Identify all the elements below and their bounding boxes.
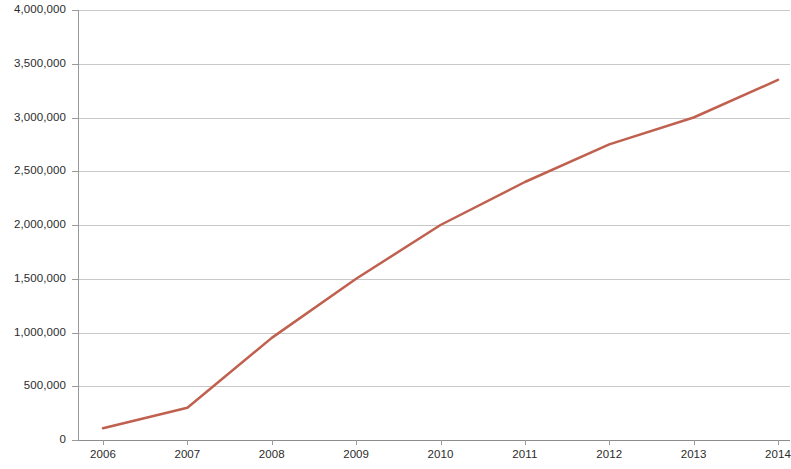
y-axis-line xyxy=(78,10,79,441)
y-axis-tick-label: 3,500,000 xyxy=(14,58,66,70)
y-axis-tick xyxy=(72,10,78,11)
y-axis-tick xyxy=(72,279,78,280)
y-axis-tick xyxy=(72,118,78,119)
x-axis-tick xyxy=(525,440,526,445)
y-axis-tick-label: 3,000,000 xyxy=(14,112,66,124)
x-axis-tick xyxy=(356,440,357,445)
gridline xyxy=(78,10,790,11)
gridline xyxy=(78,225,790,226)
x-axis-tick-label: 2010 xyxy=(428,449,454,461)
y-axis-tick xyxy=(72,64,78,65)
gridline xyxy=(78,279,790,280)
x-axis-tick xyxy=(441,440,442,445)
y-axis-tick xyxy=(72,225,78,226)
gridline xyxy=(78,118,790,119)
y-axis-tick-label: 2,500,000 xyxy=(14,166,66,178)
x-axis-tick xyxy=(187,440,188,445)
gridline xyxy=(78,386,790,387)
y-axis-tick xyxy=(72,171,78,172)
x-axis-tick-label: 2014 xyxy=(765,449,791,461)
x-axis-tick xyxy=(103,440,104,445)
x-axis-tick xyxy=(609,440,610,445)
gridline xyxy=(78,171,790,172)
y-axis-tick-label: 0 xyxy=(60,434,67,446)
y-axis-tick-label: 1,000,000 xyxy=(14,327,66,339)
x-axis-tick-label: 2012 xyxy=(596,449,622,461)
gridline xyxy=(78,440,790,441)
series-line-1 xyxy=(103,80,778,428)
gridline xyxy=(78,333,790,334)
y-axis-tick-label: 1,500,000 xyxy=(14,273,66,285)
x-axis-tick-label: 2009 xyxy=(343,449,369,461)
gridline xyxy=(78,64,790,65)
x-axis-tick xyxy=(778,440,779,445)
y-axis-tick xyxy=(72,440,78,441)
x-axis-tick-label: 2008 xyxy=(259,449,285,461)
y-axis-tick-label: 500,000 xyxy=(24,381,66,393)
x-axis-tick-label: 2006 xyxy=(90,449,116,461)
y-axis-tick-label: 4,000,000 xyxy=(14,4,66,16)
x-axis-tick xyxy=(694,440,695,445)
y-axis-tick xyxy=(72,333,78,334)
x-axis-tick-label: 2011 xyxy=(512,449,537,461)
y-axis-tick-label: 2,000,000 xyxy=(14,219,66,231)
y-axis-tick xyxy=(72,386,78,387)
x-axis-tick xyxy=(272,440,273,445)
x-axis-tick-label: 2013 xyxy=(681,449,707,461)
x-axis-tick-label: 2007 xyxy=(174,449,200,461)
